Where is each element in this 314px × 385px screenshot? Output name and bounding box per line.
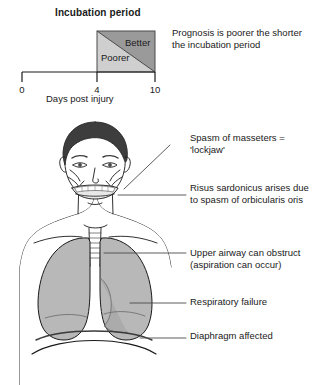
leader-line-masseter: [124, 145, 170, 189]
poorer-band-label: Poorer: [101, 52, 130, 63]
annotation-risus-sardonicus: Risus sardonicus arises due to spasm of …: [190, 182, 312, 205]
annotation-masseter-spasm: Spasm of masseters = 'lockjaw': [190, 132, 312, 155]
prognosis-note: Prognosis is poorer the shorter the incu…: [172, 27, 312, 50]
pupil-right: [108, 163, 112, 167]
better-band-label: Better: [125, 37, 150, 48]
annotation-diaphragm: Diaphragm affected: [190, 330, 312, 342]
tick-label-0: 0: [12, 84, 32, 95]
annotation-upper-airway: Upper airway can obstruct (aspiration ca…: [190, 247, 312, 270]
diagram-root: Incubation period Poorer Better 0 4 10 D…: [0, 0, 314, 385]
pupil-left: [78, 163, 82, 167]
tick-label-10: 10: [145, 84, 165, 95]
x-axis-caption: Days post injury: [46, 93, 114, 104]
annotation-respiratory-failure: Respiratory failure: [190, 296, 312, 308]
